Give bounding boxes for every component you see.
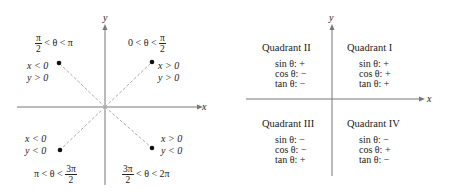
q3-cond-y: y < 0 [25, 145, 46, 156]
q1-cond-y: y > 0 [158, 72, 179, 83]
right-y-arrow-icon [330, 24, 335, 30]
q1-cond-x: x > 0 [158, 60, 179, 71]
q2-cond-x: x < 0 [27, 60, 48, 71]
quadrant-iv-title: Quadrant IV [347, 118, 400, 130]
right-x-axis-label: x [427, 93, 431, 104]
point-q4 [150, 146, 155, 151]
q4-cond-y: y < 0 [161, 145, 182, 156]
left-y-axis-label: y [103, 12, 107, 23]
q3-cond-x: x < 0 [25, 133, 46, 144]
q3-angle-range: π < θ < 3π2 [34, 164, 77, 185]
quadrant-i-tan: tan θ: + [359, 79, 389, 89]
q1-angle-range: 0 < θ < π2 [128, 33, 166, 54]
point-q3 [58, 148, 63, 153]
quadrant-iii-tan: tan θ: + [275, 155, 305, 165]
quadrant-iii-title: Quadrant III [262, 118, 314, 130]
q4-cond-x: x > 0 [161, 133, 182, 144]
quadrant-ii-tan: tan θ: − [275, 79, 305, 89]
left-y-arrow-icon [103, 24, 108, 30]
right-x-arrow-icon [419, 97, 425, 102]
q4-angle-range: 3π2 < θ < 2π [122, 164, 170, 185]
q2-cond-y: y > 0 [27, 72, 48, 83]
q2-angle-range: π2 < θ < π [35, 33, 73, 54]
quadrant-iv-tan: tan θ: − [359, 155, 389, 165]
point-q2 [57, 61, 62, 66]
quadrant-ii-title: Quadrant II [262, 42, 311, 54]
left-x-axis-label: x [202, 101, 206, 112]
right-y-axis-label: y [329, 12, 333, 23]
quadrant-i-title: Quadrant I [347, 42, 392, 54]
point-q1 [150, 60, 155, 65]
